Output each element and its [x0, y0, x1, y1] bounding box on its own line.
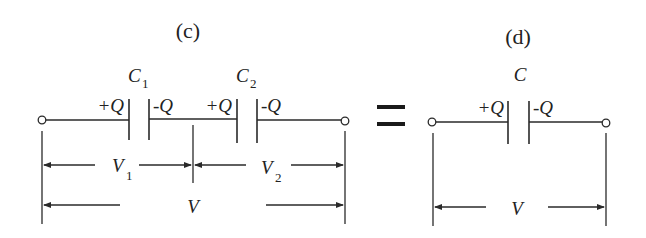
c-plus-charge: +Q [477, 97, 504, 118]
c1-minus-charge: -Q [153, 95, 173, 116]
c2-label: C 2 [236, 65, 257, 91]
v1-subscript: 1 [126, 168, 133, 183]
v2-subscript: 2 [275, 170, 282, 185]
c-label: C [514, 64, 527, 85]
c1-subscript: 1 [142, 76, 149, 91]
c2-subscript: 2 [250, 76, 257, 91]
panel-d: (d) C +Q -Q V [428, 24, 610, 226]
panel-c-title: (c) [176, 18, 200, 43]
series-capacitor-diagram: (c) C 1 C 2 +Q -Q +Q -Q [0, 0, 646, 238]
terminal-left-icon [38, 116, 46, 124]
c1-plus-charge: +Q [97, 95, 124, 116]
c1-letter: C [128, 65, 141, 86]
equals-sign-icon [377, 107, 405, 124]
c1-label: C 1 [128, 65, 149, 91]
panel-c: (c) C 1 C 2 +Q -Q +Q -Q [38, 18, 349, 224]
terminal-d-left-icon [428, 118, 436, 126]
terminal-d-right-icon [602, 119, 610, 127]
v2-letter: V [261, 157, 275, 178]
terminal-right-icon [341, 117, 349, 125]
c2-plus-charge: +Q [205, 95, 232, 116]
c2-letter: C [236, 65, 249, 86]
v1-letter: V [112, 155, 126, 176]
v-d-label: V [511, 198, 525, 219]
c2-minus-charge: -Q [261, 95, 281, 116]
v-total-label: V [187, 196, 201, 217]
c-minus-charge: -Q [533, 97, 553, 118]
panel-d-title: (d) [505, 24, 531, 49]
